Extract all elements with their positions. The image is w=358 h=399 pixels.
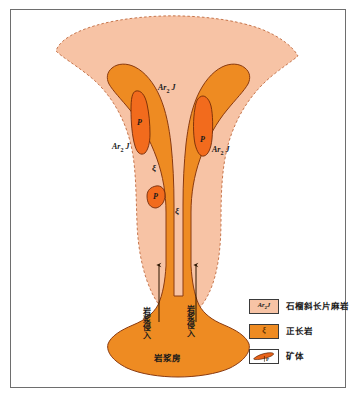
legend-item-ore: P 矿体 xyxy=(249,348,304,364)
legend-label-ore: 矿体 xyxy=(286,352,304,361)
label-unit-left: Ar2 J xyxy=(112,143,129,153)
legend-label-gneiss: 石榴斜长片麻岩 xyxy=(286,302,349,311)
figure-root: Ar2 J Ar2 J Ar2 J P P P ξ ξ 岩浆侵入 岩浆侵入 岩浆… xyxy=(0,0,358,399)
legend: Ar2J 石榴斜长片麻岩 ξ 正长岩 P 矿体 xyxy=(249,292,345,376)
label-intrusion-left: 岩浆侵入 xyxy=(141,307,149,339)
legend-swatch-ore: P xyxy=(249,349,279,364)
label-ore-right-upper: P xyxy=(200,136,205,144)
legend-item-gneiss: Ar2J 石榴斜长片麻岩 xyxy=(249,298,349,314)
label-unit-right: Ar2 J xyxy=(212,146,229,156)
label-unit-top: Ar2 J xyxy=(158,84,175,94)
legend-swatch-ore-symbol: P xyxy=(266,357,269,362)
label-xi-left: ξ xyxy=(152,164,156,173)
ore-body-icon xyxy=(250,350,278,363)
label-ore-left-lower: P xyxy=(153,193,158,201)
legend-swatch-gneiss-symbol: Ar2J xyxy=(258,302,271,310)
legend-label-syenite: 正长岩 xyxy=(286,327,313,336)
legend-swatch-gneiss: Ar2J xyxy=(249,299,279,314)
label-intrusion-right: 岩浆侵入 xyxy=(185,305,193,337)
legend-item-syenite: ξ 正长岩 xyxy=(249,323,313,339)
label-magma-chamber: 岩浆房 xyxy=(154,354,181,363)
label-xi-right: ξ xyxy=(175,207,179,216)
legend-swatch-syenite: ξ xyxy=(249,324,279,339)
label-ore-left-upper: P xyxy=(137,119,142,127)
legend-swatch-syenite-symbol: ξ xyxy=(262,327,266,335)
